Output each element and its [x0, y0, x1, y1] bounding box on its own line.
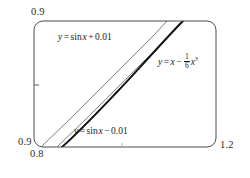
cubic-eq: = — [162, 57, 170, 67]
sin-minus-const: 0.01 — [111, 126, 128, 136]
sin-plus-fn: sin — [71, 32, 82, 42]
y-axis-min-label: 0.9 — [18, 136, 32, 147]
sin-minus-eq: = — [78, 126, 86, 136]
sin-plus-const: 0.01 — [95, 32, 112, 42]
cubic-denominator: 6 — [184, 61, 190, 70]
sin-minus-fn: sin — [87, 126, 98, 136]
curve-label-taylor-cubic: y=x−16x3 — [158, 53, 198, 70]
sin-plus-op: + — [87, 32, 95, 42]
curve-label-sin-minus: y=sin x−0.01 — [74, 127, 128, 137]
sin-minus-op: − — [103, 126, 111, 136]
y-axis-max-label: 0.9 — [31, 6, 45, 17]
figure-container: 0.9 0.9 0.8 1.2 y=sin x+0.01 y=x−16x3 y=… — [0, 0, 250, 178]
cubic-numerator: 1 — [184, 53, 190, 61]
sin-plus-eq: = — [62, 32, 70, 42]
curve-label-sin-plus: y=sin x+0.01 — [58, 33, 112, 43]
cubic-op: − — [175, 57, 183, 67]
x-axis-min-label: 0.8 — [30, 148, 44, 159]
cubic-exponent: 3 — [195, 55, 198, 62]
cubic-fraction: 16 — [184, 53, 190, 70]
x-axis-max-label: 1.2 — [220, 139, 234, 150]
